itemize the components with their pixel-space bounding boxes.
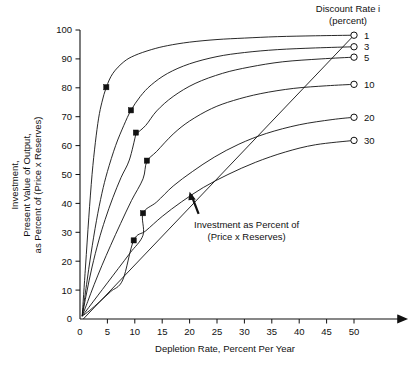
y-tick-label-90: 90 <box>61 53 72 64</box>
legend-label-30: 30 <box>364 135 375 146</box>
x-axis-arrow-icon <box>398 316 406 323</box>
x-tick-label-5: 5 <box>105 326 110 337</box>
data-marker-30 <box>131 238 136 243</box>
series-curve-10 <box>82 84 354 316</box>
x-tick-label-20: 20 <box>184 326 195 337</box>
x-tick-label-40: 40 <box>294 326 305 337</box>
legend-endpoint-3 <box>351 44 357 50</box>
legend-label-20: 20 <box>364 112 375 123</box>
data-marker-10 <box>144 158 149 163</box>
legend-endpoint-30 <box>351 137 357 143</box>
x-tick-label-10: 10 <box>130 326 141 337</box>
y-tick-label-40: 40 <box>61 198 72 209</box>
x-tick-label-45: 45 <box>321 326 332 337</box>
x-tick-label-0: 0 <box>77 326 82 337</box>
legend-endpoint-20 <box>351 114 357 120</box>
legend-title-line-2: (percent) <box>329 15 367 26</box>
legend-label-3: 3 <box>364 41 369 52</box>
x-tick-label-35: 35 <box>267 326 278 337</box>
annotation-line-2: (Price x Reserves) <box>208 231 286 242</box>
x-tick-label-25: 25 <box>212 326 223 337</box>
y-axis-title-line-1: Investment, <box>9 160 20 209</box>
series-curve-20 <box>82 117 354 316</box>
legend-endpoint-5 <box>351 54 357 60</box>
y-tick-label-30: 30 <box>61 227 72 238</box>
data-marker-20 <box>140 211 145 216</box>
data-marker-5 <box>133 130 138 135</box>
y-tick-label-70: 70 <box>61 111 72 122</box>
y-tick-label-0: 0 <box>67 313 72 324</box>
legend-label-10: 10 <box>364 79 375 90</box>
y-tick-label-20: 20 <box>61 256 72 267</box>
annotation-line-1: Investment as Percent of <box>194 219 299 230</box>
data-marker-3 <box>128 108 133 113</box>
y-tick-label-10: 10 <box>61 285 72 296</box>
legend-label-5: 5 <box>364 52 369 63</box>
y-axis-title-line-3: as Percent of (Price x Reserves) <box>32 117 43 254</box>
y-tick-label-100: 100 <box>56 24 72 35</box>
investment-line <box>83 35 354 319</box>
legend-endpoint-1 <box>351 32 357 38</box>
y-tick-label-80: 80 <box>61 82 72 93</box>
series-curve-3 <box>82 47 354 316</box>
data-marker-1 <box>104 85 109 90</box>
legend-title-line-1: Discount Rate i <box>316 3 380 14</box>
legend-endpoint-10 <box>351 81 357 87</box>
x-tick-label-30: 30 <box>239 326 250 337</box>
x-tick-label-50: 50 <box>349 326 360 337</box>
y-tick-label-60: 60 <box>61 140 72 151</box>
y-axis-title-line-2: Present Value of Output, <box>21 133 32 236</box>
y-tick-label-50: 50 <box>61 169 72 180</box>
x-tick-label-15: 15 <box>157 326 168 337</box>
chart-figure: 0102030405060708090100051015202530354045… <box>0 0 420 367</box>
chart-svg: 0102030405060708090100051015202530354045… <box>0 0 420 367</box>
legend-label-1: 1 <box>364 30 369 41</box>
x-axis-title: Depletion Rate, Percent Per Year <box>155 343 295 354</box>
